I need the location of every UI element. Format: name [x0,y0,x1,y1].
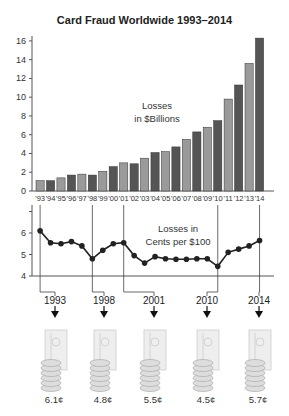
down-arrow-icon [100,311,108,318]
data-point [131,253,137,259]
x-tick-label: '09 [202,194,212,203]
bar [193,132,201,191]
down-arrow-icon [255,311,263,318]
year-label: 2010 [196,295,219,306]
data-point [173,256,179,262]
x-tick-label: '98 [87,194,97,203]
coin-icon [41,360,61,367]
data-point [152,254,158,260]
coin-icon [90,360,110,367]
data-point [194,256,200,262]
bar-annotation-1: Losses [142,100,172,111]
data-point [79,243,85,249]
bar [161,152,169,191]
line-annotation-2: Cents per $100 [146,236,211,247]
y-tick-label: 10 [16,92,26,102]
data-point [184,256,190,262]
down-arrow-icon [150,311,158,318]
y-tick-label: 16 [16,36,26,46]
x-tick-label: '01 [119,194,129,203]
bar [99,171,107,191]
bar [36,181,44,191]
bar [130,164,138,191]
x-tick-label: '03 [140,194,150,203]
x-tick-label: '13 [244,194,254,203]
line-annotation-1: Losses in [158,223,198,234]
data-point [163,256,169,262]
x-tick-label: '11 [224,194,233,203]
bar [67,175,75,191]
coin-icon [245,360,265,367]
cents-value: 6.1¢ [45,394,64,405]
bar [182,139,190,191]
y-tick-label: 0 [21,186,26,196]
bar [214,121,222,191]
data-point [215,264,221,270]
y-tick-label: 14 [16,55,26,65]
bar [46,181,54,191]
x-tick-label: '14 [255,194,265,203]
bar [88,175,96,191]
y-tick-label: 6 [21,130,26,140]
bar [78,174,86,191]
bar [172,147,180,191]
y-tick-label: 4 [21,148,26,158]
x-tick-label: '97 [77,194,87,203]
x-tick-label: '04 [150,194,160,203]
year-label: 2001 [143,295,166,306]
x-tick-label: '06 [171,194,181,203]
bar [203,127,211,191]
y-tick-label: 2 [21,167,26,177]
cents-value: 4.8¢ [94,394,113,405]
year-label: 1998 [93,295,116,306]
y-tick-label: 8 [21,111,26,121]
y-tick-label: 4 [21,271,26,281]
down-arrow-icon [51,311,59,318]
x-tick-label: '08 [192,194,202,203]
y-tick-label: 5 [21,250,26,260]
bar [235,85,243,191]
data-point [48,240,54,246]
data-point [37,228,43,234]
bar [224,99,232,191]
year-label: 1993 [44,295,67,306]
data-point [246,243,252,249]
data-point [236,246,242,252]
data-point [225,250,231,256]
bar [245,63,253,191]
x-tick-label: '10 [213,194,223,203]
bar-annotation-2: in $Billions [134,113,180,124]
x-tick-label: '05 [161,194,171,203]
x-tick-label: '00 [108,194,118,203]
data-point [205,256,211,262]
x-tick-label: '02 [129,194,139,203]
data-point [100,247,106,253]
x-tick-label: '93 [35,194,45,203]
cents-value: 5.7¢ [249,394,268,405]
bar [255,38,263,191]
data-point [69,239,75,245]
y-tick-label: 12 [16,73,26,83]
data-point [257,238,263,244]
x-tick-label: '07 [182,194,192,203]
bar [151,153,159,191]
year-label: 2014 [248,295,271,306]
bar [120,163,128,191]
data-point [58,241,64,247]
y-tick-label: 6 [21,228,26,238]
data-point [110,241,116,247]
x-tick-label: '94 [46,194,56,203]
x-tick-label: '12 [234,194,244,203]
x-tick-label: '95 [56,194,66,203]
x-tick-label: '99 [98,194,108,203]
bar [141,158,149,191]
data-point [90,256,96,262]
chart-canvas: 0246810121416'93'94'95'96'97'98'99'00'01… [0,0,289,416]
bar [57,178,65,191]
cents-value: 5.5¢ [144,394,163,405]
data-point [121,240,127,246]
x-tick-label: '96 [67,194,77,203]
coin-icon [140,360,160,367]
cents-value: 4.5¢ [197,394,216,405]
coin-icon [193,360,213,367]
